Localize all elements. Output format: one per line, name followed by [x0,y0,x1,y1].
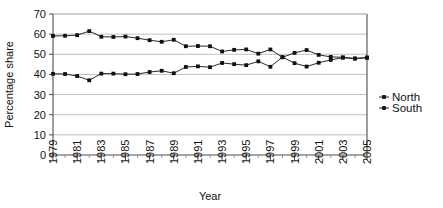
data-point-south-1988 [160,40,164,44]
x-tick-label-1997: 1997 [264,140,276,164]
data-point-north-1979 [51,72,55,76]
chart-container: 010203040506070 197919811983198519871989… [0,0,443,208]
data-point-south-1990 [184,44,188,48]
data-point-south-1979 [51,34,55,38]
chart-legend: NorthSouth [379,91,422,114]
data-point-north-1990 [184,65,188,69]
data-point-south-1984 [111,35,115,39]
x-tick-label-1993: 1993 [216,140,228,164]
data-point-north-1993 [220,61,224,65]
data-point-south-2001 [317,53,321,57]
series-north [51,55,369,82]
data-point-south-1982 [87,29,91,33]
y-tick-label-50: 50 [34,48,46,60]
data-point-north-1997 [268,65,272,69]
data-point-south-1993 [220,50,224,54]
legend-item-south[interactable]: South [379,102,422,114]
data-point-south-1999 [293,51,297,55]
data-point-north-1987 [148,70,152,74]
legend-swatch-marker-south [382,106,386,110]
y-tick-label-20: 20 [34,109,46,121]
y-tick-label-0: 0 [40,149,46,161]
data-point-south-1986 [136,36,140,40]
data-point-north-1992 [208,65,212,69]
x-tick-label-2001: 2001 [313,140,325,164]
data-point-south-1989 [172,38,176,42]
data-point-north-1996 [256,59,260,63]
data-point-north-1984 [111,72,115,76]
data-point-north-1985 [124,72,128,76]
data-point-south-1996 [256,52,260,56]
x-tick-label-1985: 1985 [119,140,131,164]
data-point-south-1991 [196,44,200,48]
x-tick-label-1979: 1979 [47,140,59,164]
x-tick-label-2005: 2005 [361,140,373,164]
data-point-south-1998 [281,55,285,59]
data-point-south-2000 [305,48,309,52]
x-axis-ticks: 1979198119831985198719891991199319951997… [47,140,373,164]
data-point-north-1999 [293,61,297,65]
data-point-south-2004 [353,57,357,61]
data-point-south-2002 [329,55,333,59]
y-tick-label-60: 60 [34,28,46,40]
data-point-south-1987 [148,38,152,42]
y-tick-label-40: 40 [34,68,46,80]
x-tick-label-1983: 1983 [95,140,107,164]
data-point-north-1980 [63,72,67,76]
y-tick-label-70: 70 [34,8,46,20]
y-tick-label-10: 10 [34,129,46,141]
data-point-south-1983 [99,35,103,39]
line-chart: 010203040506070 197919811983198519871989… [0,0,443,208]
data-point-south-1995 [244,48,248,52]
data-point-north-1988 [160,69,164,73]
x-axis-title: Year [199,190,222,202]
y-axis-title: Percentage share [3,41,15,128]
data-point-north-2000 [305,65,309,69]
data-point-south-1981 [75,33,79,37]
legend-swatch-marker-north [382,95,386,99]
x-tick-label-1987: 1987 [144,140,156,164]
x-tick-label-1995: 1995 [240,140,252,164]
data-point-south-2003 [341,55,345,59]
data-point-north-1994 [232,62,236,66]
x-tick-label-2003: 2003 [337,140,349,164]
x-tick-label-1991: 1991 [192,140,204,164]
data-point-south-2005 [365,56,369,60]
data-point-north-1986 [136,72,140,76]
data-point-north-1982 [87,78,91,82]
data-point-south-1980 [63,34,67,38]
x-tick-label-1989: 1989 [168,140,180,164]
data-point-north-1981 [75,74,79,78]
data-point-south-1985 [124,35,128,39]
data-point-north-1989 [172,71,176,75]
data-point-south-1994 [232,48,236,52]
x-tick-label-1999: 1999 [289,140,301,164]
y-axis-ticks: 010203040506070 [34,8,53,161]
data-point-north-1983 [99,72,103,76]
x-tick-label-1981: 1981 [71,140,83,164]
data-point-south-1997 [268,48,272,52]
y-tick-label-30: 30 [34,89,46,101]
data-point-south-1992 [208,44,212,48]
data-point-north-1995 [244,63,248,67]
data-point-north-1991 [196,64,200,68]
data-point-north-2001 [317,61,321,65]
legend-label-south: South [392,102,422,114]
